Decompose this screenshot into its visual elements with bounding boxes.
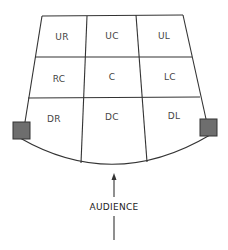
- audience-label: AUDIENCE: [89, 202, 138, 212]
- stage-back-edge: [42, 15, 183, 16]
- divider-right-center: [81, 16, 87, 163]
- stage-right-edge: [183, 15, 206, 119]
- area-downstage-center: DC: [105, 112, 119, 122]
- arrow-up-icon: [112, 173, 117, 180]
- area-downstage-left: DL: [168, 111, 181, 121]
- area-upstage-center: UC: [105, 31, 118, 41]
- area-upstage-left: UL: [158, 31, 170, 41]
- right-speaker-box: [200, 119, 217, 136]
- stage-left-edge: [25, 16, 42, 122]
- area-right-center: RC: [53, 74, 66, 84]
- area-center: C: [109, 72, 116, 82]
- divider-center-left: [136, 15, 147, 162]
- divider-center-downstage: [28, 97, 200, 98]
- area-left-center: LC: [164, 72, 176, 82]
- area-downstage-right: DR: [47, 114, 61, 124]
- left-speaker-box: [13, 122, 30, 139]
- stage-front-arc: [20, 135, 210, 164]
- area-upstage-right: UR: [55, 32, 68, 42]
